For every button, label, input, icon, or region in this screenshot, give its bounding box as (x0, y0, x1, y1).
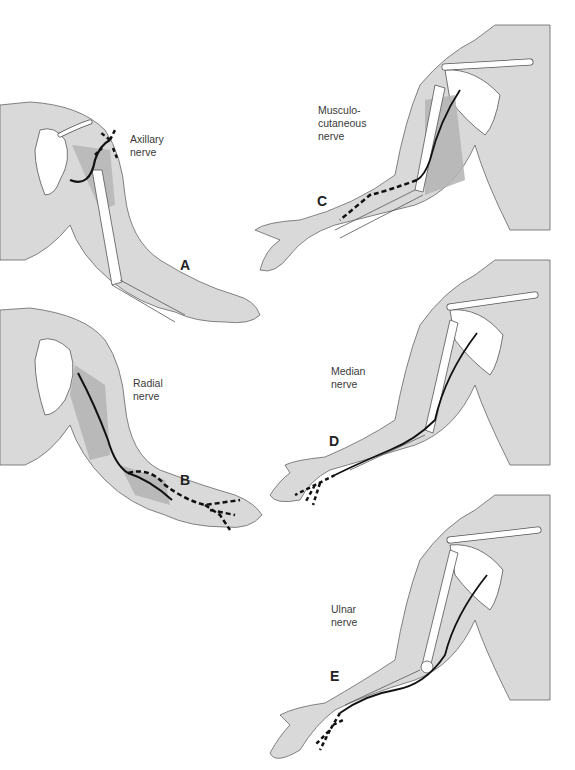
panel-a-axillary: Axillary nerve A (0, 100, 280, 330)
nerve-label-median: Median nerve (331, 365, 365, 391)
arm-illustration-c (255, 0, 575, 280)
panel-letter-a: A (180, 257, 190, 273)
arm-illustration-d (255, 255, 575, 505)
nerve-label-axillary: Axillary nerve (130, 133, 164, 159)
panel-b-radial: Radial nerve B (0, 305, 280, 535)
panel-c-musculocutaneous: Musculo- cutaneous nerve C (255, 0, 575, 280)
panel-letter-b: B (180, 472, 190, 488)
arm-illustration-b (0, 305, 280, 535)
nerve-label-musculocutaneous: Musculo- cutaneous nerve (318, 104, 366, 143)
nerve-label-radial: Radial nerve (133, 377, 163, 403)
panel-e-ulnar: Ulnar nerve E (255, 485, 575, 770)
panel-letter-e: E (330, 668, 339, 684)
panel-letter-c: C (317, 193, 327, 209)
panel-d-median: Median nerve D (255, 255, 575, 505)
nerve-label-ulnar: Ulnar nerve (331, 603, 357, 629)
arm-illustration-e (255, 485, 575, 770)
panel-letter-d: D (329, 433, 339, 449)
